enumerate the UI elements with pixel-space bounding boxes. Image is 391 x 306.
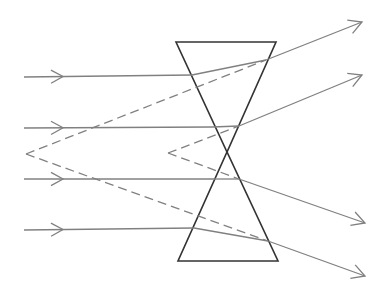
virtual-extension — [168, 153, 239, 179]
internal-ray — [194, 228, 268, 241]
virtual-ray-extensions — [26, 60, 268, 241]
prism-ray-diagram — [0, 0, 391, 306]
incoming-ray — [24, 75, 192, 77]
light-rays — [24, 20, 365, 278]
ray-2 — [24, 73, 362, 134]
top-prism — [176, 42, 276, 152]
incoming-ray — [24, 127, 212, 128]
outgoing-ray — [266, 22, 362, 60]
outgoing-ray — [268, 241, 365, 276]
ray-1 — [24, 20, 362, 83]
ray-3 — [24, 172, 365, 225]
internal-ray — [192, 60, 266, 75]
incoming-ray — [24, 228, 194, 230]
virtual-extension — [26, 60, 266, 154]
ray-4 — [24, 223, 365, 278]
bottom-prism — [178, 152, 278, 261]
